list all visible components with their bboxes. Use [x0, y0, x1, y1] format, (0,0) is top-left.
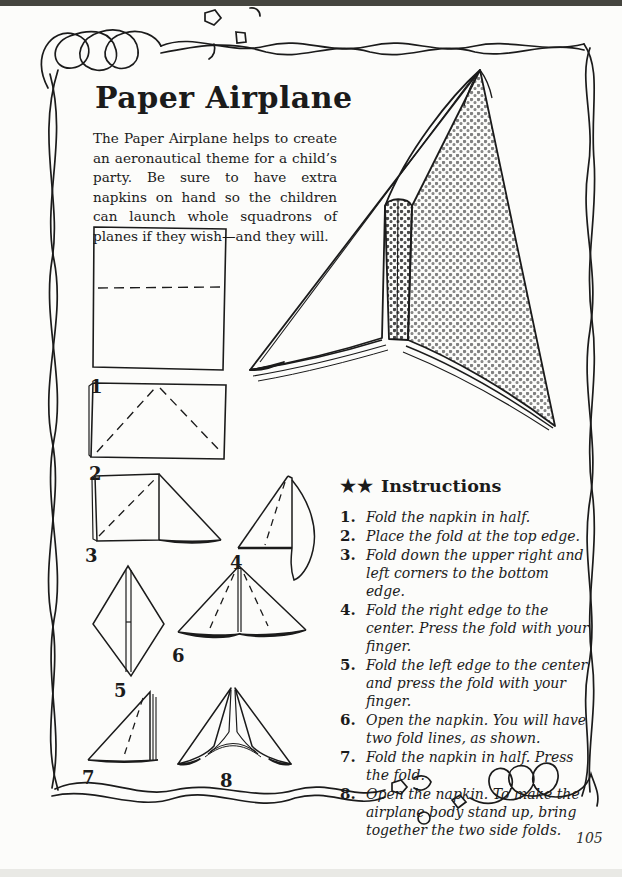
figure-step-2: 2 [85, 378, 230, 483]
step-5-diagram [88, 562, 168, 680]
instruction-text: Open the napkin. To make the airplane bo… [366, 785, 592, 839]
instruction-item: 2. Place the fold at the top edge. [340, 527, 592, 545]
figure-step-4: 4 [228, 468, 328, 572]
instructions-heading-label: Instructions [381, 476, 501, 496]
instruction-text: Open the napkin. You will have two fold … [366, 711, 592, 747]
streamer-left-strand [49, 74, 58, 790]
confetti-piece [236, 32, 246, 43]
instruction-text: Fold the left edge to the center and pre… [366, 656, 592, 710]
step-3-diagram [85, 470, 225, 545]
instruction-number: 8. [340, 785, 366, 839]
instruction-number: 5. [340, 656, 366, 710]
instruction-item: 6. Open the napkin. You will have two fo… [340, 711, 592, 747]
instruction-item: 5. Fold the left edge to the center and … [340, 656, 592, 710]
figure-step-1: 1 [90, 224, 230, 396]
instructions-section: ★★Instructions 1. Fold the napkin in hal… [340, 476, 592, 840]
instruction-text: Fold the right edge to the center. Press… [366, 601, 592, 655]
instruction-number: 6. [340, 711, 366, 747]
streamer-bottom-strand [52, 794, 385, 803]
instruction-number: 7. [340, 748, 366, 784]
napkin-right-face [408, 70, 555, 426]
figure-step-5: 5 [88, 562, 168, 700]
figure-step-8: 8 [172, 680, 297, 790]
instruction-item: 1. Fold the napkin in half. [340, 508, 592, 526]
confetti-piece [205, 10, 221, 25]
napkin-center-fold [385, 199, 412, 340]
instruction-text: Fold the napkin in half. Press the fold. [366, 748, 592, 784]
step-2-diagram [85, 378, 230, 463]
step-7-label: 7 [82, 769, 172, 787]
instruction-item: 3. Fold down the upper right and left co… [340, 546, 592, 600]
instruction-text: Fold down the upper right and left corne… [366, 546, 592, 600]
page-number: 105 [576, 830, 603, 846]
step-1-diagram [90, 224, 230, 374]
difficulty-stars: ★★ [340, 476, 374, 496]
figure-step-6: 6 [172, 560, 312, 665]
step-6-label: 6 [172, 647, 312, 665]
step-7-diagram [82, 682, 172, 767]
instruction-number: 4. [340, 601, 366, 655]
instruction-text: Fold the napkin in half. [366, 508, 592, 526]
figure-step-7: 7 [82, 682, 172, 787]
instruction-item: 8. Open the napkin. To make the airplane… [340, 785, 592, 839]
instruction-item: 7. Fold the napkin in half. Press the fo… [340, 748, 592, 784]
finished-airplane-napkin-illustration [246, 56, 576, 436]
figure-step-3: 3 [85, 470, 225, 565]
instruction-item: 4. Fold the right edge to the center. Pr… [340, 601, 592, 655]
instruction-number: 2. [340, 527, 366, 545]
step-8-label: 8 [220, 772, 297, 790]
book-page: Paper Airplane The Paper Airplane helps … [0, 0, 622, 877]
step-8-diagram [172, 680, 297, 770]
instruction-number: 3. [340, 546, 366, 600]
confetti-piece [250, 8, 260, 16]
instruction-number: 1. [340, 508, 366, 526]
instructions-heading: ★★Instructions [340, 476, 592, 496]
instruction-text: Place the fold at the top edge. [366, 527, 592, 545]
step-6-diagram [172, 560, 312, 645]
